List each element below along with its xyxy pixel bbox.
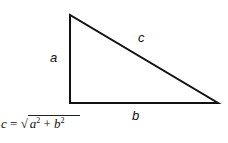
- formula-equals: =: [10, 116, 17, 131]
- right-triangle: [70, 15, 218, 103]
- radical-icon: √: [21, 116, 28, 131]
- formula-exp-b: 2: [61, 116, 65, 125]
- formula-plus: +: [44, 116, 51, 131]
- side-a-label: a: [50, 50, 57, 65]
- formula-radicand: a2 + b2: [28, 115, 80, 131]
- formula-exp-a: 2: [36, 116, 40, 125]
- side-b-label: b: [132, 108, 139, 123]
- pythagorean-formula: c = √a2 + b2: [1, 116, 80, 132]
- side-c-label: c: [138, 30, 145, 45]
- formula-c: c: [1, 116, 7, 131]
